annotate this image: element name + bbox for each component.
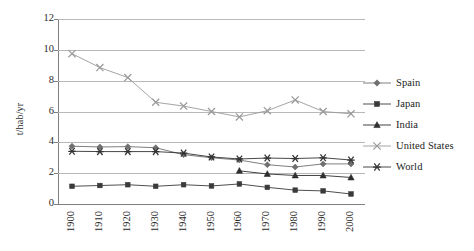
- x-tick-label: 1980: [289, 198, 300, 232]
- data-point-asterisk-marker: [319, 154, 326, 161]
- x-tick-label: 1930: [150, 198, 161, 232]
- data-point-square-marker: [349, 192, 354, 197]
- data-point-square-marker: [153, 184, 158, 189]
- data-point-cross-marker: [236, 113, 243, 120]
- y-tick-label: 6: [30, 106, 54, 117]
- data-point-square-marker: [293, 188, 298, 193]
- x-tick-label: 1920: [122, 198, 133, 232]
- legend-label: United States: [392, 140, 454, 151]
- data-point-cross-marker: [68, 50, 75, 57]
- legend: SpainJapanIndiaUnited StatesWorld: [362, 72, 474, 177]
- legend-cross-icon: [362, 138, 392, 154]
- legend-entry-united-states[interactable]: United States: [362, 135, 474, 156]
- y-tick-label: 8: [30, 75, 54, 86]
- y-tick-label: 0: [30, 198, 54, 209]
- x-tick-label: 1910: [94, 198, 105, 232]
- data-point-diamond-marker: [320, 161, 326, 167]
- y-tick-label: 4: [30, 136, 54, 147]
- data-point-square-marker: [375, 101, 380, 106]
- y-axis-tick-labels: 121086420: [26, 0, 54, 251]
- legend-entry-spain[interactable]: Spain: [362, 72, 474, 93]
- line-chart-figure: t/hab/yr 121086420 190019101920193019401…: [0, 0, 474, 251]
- series-japan: [70, 182, 354, 197]
- x-tick-label: 1900: [66, 198, 77, 232]
- data-point-asterisk-marker: [264, 155, 271, 162]
- data-point-square-marker: [126, 182, 131, 187]
- series-united-states: [68, 50, 354, 120]
- legend-label: India: [392, 119, 418, 130]
- data-point-cross-marker: [264, 107, 271, 114]
- data-point-cross-marker: [292, 96, 299, 103]
- data-point-cross-marker: [124, 74, 131, 81]
- legend-entry-japan[interactable]: Japan: [362, 93, 474, 114]
- x-tick-label: 1950: [206, 198, 217, 232]
- data-point-square-marker: [237, 182, 242, 187]
- y-axis-title: t/hab/yr: [14, 84, 25, 154]
- x-tick-label: 1990: [317, 198, 328, 232]
- y-tick-label: 12: [30, 13, 54, 24]
- data-point-asterisk-marker: [373, 163, 381, 170]
- legend-entry-world[interactable]: World: [362, 156, 474, 177]
- plot-area: [58, 19, 365, 205]
- x-tick-label: 2000: [345, 198, 356, 232]
- legend-square-icon: [362, 96, 392, 112]
- legend-entry-india[interactable]: India: [362, 114, 474, 135]
- x-tick-label: 1960: [233, 198, 244, 232]
- data-point-square-marker: [209, 184, 214, 189]
- data-point-cross-marker: [208, 108, 215, 115]
- y-tick-label: 10: [30, 44, 54, 55]
- legend-label: Spain: [392, 77, 420, 88]
- data-point-diamond-marker: [264, 162, 270, 168]
- data-point-square-marker: [70, 184, 75, 189]
- data-point-diamond-marker: [374, 79, 380, 85]
- x-tick-label: 1940: [178, 198, 189, 232]
- data-point-cross-marker: [96, 64, 103, 71]
- x-tick-label: 1970: [261, 198, 272, 232]
- legend-diamond-icon: [362, 75, 392, 91]
- data-point-square-marker: [181, 182, 186, 187]
- x-axis-tick-labels: 1900191019201930194019501960197019801990…: [58, 205, 365, 251]
- legend-label: Japan: [392, 98, 420, 109]
- data-point-triangle-marker: [236, 168, 242, 174]
- data-point-square-marker: [321, 189, 326, 194]
- data-point-square-marker: [98, 183, 103, 188]
- series-overlay: [58, 19, 365, 205]
- data-point-diamond-marker: [292, 164, 298, 170]
- legend-triangle-icon: [362, 117, 392, 133]
- data-point-square-marker: [265, 185, 270, 190]
- data-point-asterisk-marker: [291, 155, 298, 162]
- y-tick-label: 2: [30, 167, 54, 178]
- legend-asterisk-icon: [362, 159, 392, 175]
- legend-label: World: [392, 161, 422, 172]
